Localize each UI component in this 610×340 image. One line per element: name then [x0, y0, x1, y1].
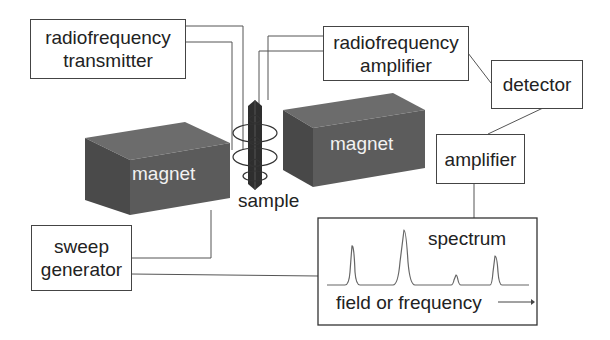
spectrum-title: spectrum [428, 228, 506, 250]
rf-amplifier-box: radiofrequency amplifier [323, 26, 469, 81]
rf-transmitter-line2: transmitter [63, 49, 153, 72]
amplifier-box: amplifier [436, 134, 525, 184]
spectrum-axis-label: field or frequency [336, 292, 482, 314]
sweep-generator-box: sweep generator [31, 225, 132, 291]
sweep-to-spectrum-line [131, 274, 318, 276]
detector-box: detector [491, 60, 583, 109]
rf-transmitter-line1: radiofrequency [45, 26, 171, 49]
sweep-generator-line1: sweep [54, 235, 109, 258]
magnet-left-label: magnet [132, 163, 195, 185]
rf-transmitter-box: radiofrequency transmitter [30, 19, 186, 79]
detector-to-amplifier-line [488, 108, 543, 134]
magnet-right-label: magnet [330, 133, 393, 155]
rf-amplifier-line1: radiofrequency [333, 31, 459, 54]
sample-label: sample [238, 190, 299, 212]
rf-amplifier-line2: amplifier [360, 54, 432, 77]
rf-amp-to-detector-line [468, 53, 491, 83]
detector-label: detector [503, 73, 572, 96]
sweep-generator-line2: generator [41, 258, 122, 281]
rf-amp-wire-1 [268, 36, 323, 100]
amplifier-label: amplifier [445, 148, 517, 171]
sweep-to-magnet-line [131, 210, 211, 258]
